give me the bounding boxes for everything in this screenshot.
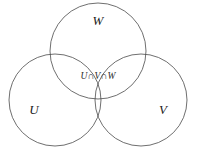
label-set-u: U [29, 102, 40, 117]
circle-set-v [95, 54, 187, 146]
circle-set-u [9, 54, 101, 146]
label-set-v: V [159, 102, 169, 117]
label-triple-intersection: U∩V∩W [81, 71, 117, 81]
label-set-w: W [93, 13, 105, 28]
venn-diagram-canvas: W U V U∩V∩W [0, 0, 197, 153]
venn-diagram-figure: W U V U∩V∩W [0, 0, 197, 153]
